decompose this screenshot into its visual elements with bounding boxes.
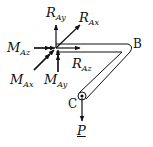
label-m-ay: MAy bbox=[44, 73, 67, 89]
label-r-ay: RAy bbox=[46, 6, 66, 22]
label-r-ax: RAx bbox=[79, 11, 99, 27]
r-ax-arrow bbox=[56, 25, 80, 48]
label-m-az: MAz bbox=[7, 41, 30, 57]
label-load-p: P bbox=[77, 124, 86, 137]
label-point-c: C bbox=[68, 98, 77, 110]
label-r-az: RAz bbox=[72, 57, 92, 73]
label-m-ax: MAx bbox=[10, 73, 34, 89]
free-body-diagram: RAy RAx RAz MAz MAx MAy B C P bbox=[0, 0, 153, 147]
label-point-b: B bbox=[133, 38, 142, 50]
